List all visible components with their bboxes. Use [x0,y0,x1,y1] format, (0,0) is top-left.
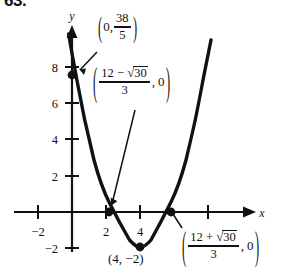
label-root-plus-fraction: 12 + √ 30 3 [188,230,238,261]
y-tick-label-8: 8 [52,61,58,75]
y-tick-label-6: 6 [52,97,58,111]
label-y-intercept-denominator: 5 [117,29,127,42]
label-root-plus-radicand: 30 [222,230,237,244]
y-axis-label: y [68,9,75,23]
label-root-plus-open-paren: ( [182,226,186,265]
y-tick-label--2: −2 [45,242,58,256]
label-root-minus-numerator-a: 12 [101,66,114,80]
point-root-minus [105,208,114,217]
label-y-intercept-close-paren: ) [133,12,137,41]
label-root-minus-denominator: 3 [119,84,129,97]
label-y-intercept-open-paren: ( [98,12,102,41]
leader-y-intercept-arrowhead [80,69,87,76]
leader-root-minus [112,110,135,204]
label-root-minus: ( 12 − √ 30 3 , 0 ) [92,66,171,97]
x-tick-label-4: 4 [137,225,144,239]
label-root-plus-numerator-a: 12 [190,230,203,244]
label-root-minus-radical-group: √ 30 [127,66,148,80]
y-tick-label-2: 2 [52,170,58,184]
label-y-intercept: ( 0, 38 5 ) [97,12,138,42]
label-root-plus: ( 12 + √ 30 3 , 0 ) [181,230,260,261]
label-root-minus-open-paren: ( [93,62,97,101]
label-vertex: (4, −2) [108,252,144,265]
leader-root-plus [173,214,182,228]
point-y-intercept [68,71,77,80]
label-root-plus-numerator: 12 + √ 30 [188,230,238,244]
label-root-plus-close-paren: ) [255,226,259,265]
x-tick-label--2: −2 [31,225,44,239]
label-root-minus-numerator: 12 − √ 30 [99,66,149,80]
label-y-intercept-fraction: 38 5 [114,12,131,42]
label-root-minus-fraction: 12 − √ 30 3 [99,66,149,97]
label-root-minus-minus-sign: − [117,66,124,80]
label-root-plus-denominator: 3 [208,248,218,261]
label-root-plus-radical-group: √ 30 [216,230,237,244]
label-root-plus-y-part: 0 [246,239,254,252]
x-axis-arrowhead [243,207,256,218]
label-root-plus-plus-sign: + [206,230,213,244]
label-root-minus-y-part: 0 [157,75,165,88]
x-axis-label: x [258,206,265,220]
label-root-minus-close-paren: ) [166,62,170,101]
y-tick-label-4: 4 [52,133,59,147]
label-y-intercept-x-part: 0, [103,20,113,33]
label-y-intercept-numerator: 38 [114,12,131,25]
x-tick-label-2: 2 [103,225,109,239]
label-root-minus-radicand: 30 [133,66,148,80]
figure-container: 63. x y −2 2 4 8 6 4 [0,0,299,279]
